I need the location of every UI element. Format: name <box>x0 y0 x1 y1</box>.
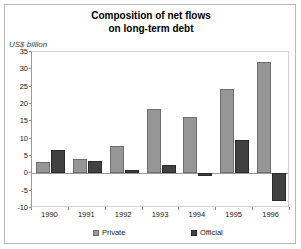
bar-private-1995 <box>220 89 234 174</box>
x-axis-tick-mark <box>215 207 216 210</box>
y-axis-tick-labels: 35302520151050-5-10 <box>0 51 28 207</box>
y-axis-tick-label: 30 <box>8 64 28 73</box>
legend-label: Official <box>200 228 223 237</box>
x-axis-tick-label-1990: 1990 <box>41 210 58 219</box>
legend-entry-private[interactable]: Private <box>93 228 125 237</box>
x-axis-tick-mark <box>31 207 32 210</box>
chart-title-line-2: on long-term debt <box>24 23 278 36</box>
bar-private-1990 <box>36 162 50 173</box>
x-axis-tick-mark <box>289 207 290 210</box>
x-axis-tick-label-1991: 1991 <box>78 210 95 219</box>
y-axis-tick-label: 15 <box>8 116 28 125</box>
chart-legend: PrivateOfficial <box>31 228 289 242</box>
x-axis-tick-label-1992: 1992 <box>115 210 132 219</box>
y-axis-tick-label: 5 <box>8 151 28 160</box>
x-axis-tick-label-1993: 1993 <box>152 210 169 219</box>
y-axis-tick-label: -10 <box>8 203 28 212</box>
bar-official-1996 <box>272 173 286 201</box>
chart-title-line-1: Composition of net flows <box>24 10 278 23</box>
bar-private-1993 <box>147 109 161 173</box>
bar-private-1991 <box>73 159 87 174</box>
x-axis-tick-mark <box>105 207 106 210</box>
x-axis-tick-mark <box>178 207 179 210</box>
y-axis-tick-label: 25 <box>8 81 28 90</box>
bar-private-1996 <box>257 62 271 174</box>
bars-layer <box>32 52 288 206</box>
legend-swatch-official-icon <box>191 230 197 236</box>
x-axis-tick-mark <box>68 207 69 210</box>
y-axis-tick-label: 20 <box>8 99 28 108</box>
x-axis-tick-label-1995: 1995 <box>225 210 242 219</box>
x-axis-tick-label-1996: 1996 <box>262 210 279 219</box>
bar-private-1992 <box>110 146 124 173</box>
x-axis-tick-mark <box>142 207 143 210</box>
chart-figure: Composition of net flows on long-term de… <box>0 0 301 249</box>
y-axis-tick-label: 35 <box>8 47 28 56</box>
chart-title: Composition of net flows on long-term de… <box>24 10 278 35</box>
bar-private-1994 <box>183 117 197 174</box>
bar-official-1995 <box>235 140 249 173</box>
bar-official-1991 <box>88 161 102 173</box>
legend-entry-official[interactable]: Official <box>191 228 223 237</box>
y-axis-tick-label: 0 <box>8 168 28 177</box>
legend-swatch-private-icon <box>93 230 99 236</box>
bar-official-1990 <box>51 150 65 173</box>
x-axis-tick-label-1994: 1994 <box>189 210 206 219</box>
legend-label: Private <box>102 228 125 237</box>
y-axis-tick-label: 10 <box>8 133 28 142</box>
bar-official-1994 <box>198 173 212 175</box>
plot-area <box>31 51 289 207</box>
bar-official-1992 <box>125 170 139 174</box>
x-axis-tick-mark <box>252 207 253 210</box>
bar-official-1993 <box>162 165 176 173</box>
y-axis-tick-label: -5 <box>8 185 28 194</box>
